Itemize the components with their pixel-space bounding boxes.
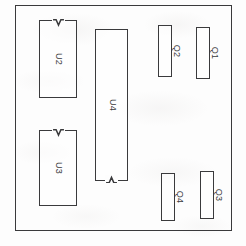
component-label-u3: U3 (54, 162, 63, 174)
component-q2: Q2 (158, 25, 172, 77)
component-label-q4: Q4 (174, 191, 183, 203)
component-u4: U4 (95, 29, 128, 181)
pin1-notch-icon (52, 129, 65, 136)
component-label-u2: U2 (54, 53, 63, 65)
component-label-q1: Q1 (209, 47, 218, 59)
component-label-u4: U4 (107, 99, 116, 111)
component-q3: Q3 (200, 171, 214, 219)
component-u2: U2 (39, 20, 77, 98)
component-label-q2: Q2 (171, 45, 180, 57)
component-q1: Q1 (196, 27, 210, 79)
pin1-notch-icon (52, 19, 65, 26)
component-q4: Q4 (161, 173, 175, 221)
component-u3: U3 (39, 130, 77, 206)
pin1-notch-icon (105, 175, 118, 182)
component-label-q3: Q3 (213, 189, 222, 201)
pcb-placement-diagram: U2U3U4Q2Q1Q4Q3 (0, 0, 246, 246)
